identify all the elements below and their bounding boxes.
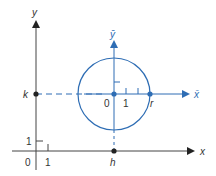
x-unit-label: 1 bbox=[45, 157, 51, 168]
point-k bbox=[33, 91, 38, 96]
x-axis-label: x bbox=[199, 146, 206, 157]
origin-label: 0 bbox=[25, 157, 31, 168]
radius-label: r bbox=[150, 98, 154, 109]
y-unit-label: 1 bbox=[26, 136, 32, 147]
x-bar-origin-label: 0 bbox=[104, 98, 110, 109]
x-bar-unit-label: 1 bbox=[123, 98, 129, 109]
k-label: k bbox=[23, 89, 29, 100]
y-bar-axis-label: ȳ bbox=[109, 29, 116, 40]
translation-of-axes-diagram: y x 0 1 1 k h ȳ x̄ 0 1 r bbox=[0, 0, 216, 176]
y-axis-label: y bbox=[31, 7, 38, 18]
h-label: h bbox=[110, 157, 116, 168]
point-r bbox=[147, 91, 152, 96]
point-center bbox=[111, 91, 116, 96]
x-bar-axis-label: x̄ bbox=[193, 89, 200, 100]
point-h bbox=[111, 148, 116, 153]
